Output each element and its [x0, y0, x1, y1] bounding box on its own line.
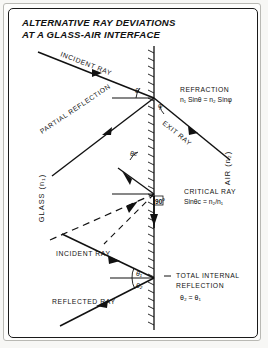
partial-reflection-arrow — [102, 127, 112, 135]
tir-formula: θ₂ = θ₁ — [180, 294, 201, 301]
tir-heading-line-2: REFLECTION — [176, 282, 224, 289]
refraction-formula: n₁ Sinθ = n₂ Sinφ — [180, 96, 232, 104]
critical-formula: Sinθc = n₂/n₁ — [184, 198, 224, 205]
grazing-angle-label: 90° — [155, 198, 165, 205]
critical-ray-case: θc 90° CRITICAL RAY Sinθc = n₂/n₁ — [50, 150, 236, 244]
exit-angle-label: φ — [158, 102, 163, 110]
exit-ray-label: EXIT RAY — [161, 119, 193, 147]
tir-heading-line-1: TOTAL INTERNAL — [176, 272, 240, 279]
theta1-arc — [132, 268, 134, 278]
tir-incident-arrow — [108, 256, 120, 264]
tir-reflected-ray-label: REFLECTED RAY — [52, 298, 116, 305]
refraction-case: INCIDENT RAY θ EXIT RAY φ PARTIAL REFLEC… — [38, 50, 232, 176]
title-line-2: AT A GLASS-AIR INTERFACE — [21, 29, 161, 40]
total-internal-reflection-case: INCIDENT RAY REFLECTED RAY θ₁ θ₂ TOTAL I… — [52, 234, 240, 326]
partial-reflection-label: PARTIAL REFLECTION — [39, 82, 112, 134]
critical-incident-ray-line — [50, 194, 154, 240]
critical-upper-branch — [118, 168, 154, 194]
refraction-heading: REFRACTION — [180, 86, 229, 93]
critical-angle-label: θc — [130, 150, 138, 157]
tir-incident-angle-label: θ₁ — [136, 270, 143, 277]
critical-upper-arrow — [122, 171, 132, 185]
theta2-arc — [132, 278, 135, 289]
refraction-incident-angle-label: θ — [135, 87, 139, 94]
diagram-canvas: ALTERNATIVE RAY DEVIATIONS AT A GLASS-AI… — [8, 8, 258, 338]
figure-frame: ALTERNATIVE RAY DEVIATIONS AT A GLASS-AI… — [0, 0, 268, 348]
critical-lower-branch — [104, 194, 154, 244]
critical-heading: CRITICAL RAY — [184, 188, 236, 195]
tir-reflected-angle-label: θ₂ — [136, 282, 143, 289]
glass-region-label: GLASS (n₁) — [37, 174, 46, 222]
tir-incident-ray-label: INCIDENT RAY — [56, 250, 111, 257]
exit-ray-arrow — [188, 126, 198, 135]
glass-air-interface — [148, 46, 154, 330]
title-line-1: ALTERNATIVE RAY DEVIATIONS — [21, 17, 176, 28]
